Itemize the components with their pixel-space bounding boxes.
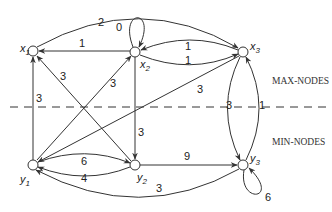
weight-y2-x1: 3 [60, 70, 66, 82]
weight-x2-y2: 3 [138, 126, 144, 138]
weight-y3-self: 6 [265, 191, 271, 203]
node-label-y2: y2 [136, 171, 148, 186]
region-label-max-nodes: MAX-NODES [272, 76, 329, 86]
node-label-x2: x2 [139, 58, 151, 73]
node-label-y1: y1 [19, 173, 30, 188]
node-x2 [130, 47, 140, 57]
edge-x1-x3 [37, 19, 238, 48]
weight-x2-x3: 1 [185, 54, 191, 66]
region-label-min-nodes: MIN-NODES [272, 137, 325, 147]
weight-x3-y1: 3 [197, 83, 203, 95]
nodes [28, 46, 248, 170]
node-label-x3: x3 [249, 40, 261, 55]
edge-y3-self [243, 168, 261, 194]
weight-y2-y3: 9 [184, 150, 190, 162]
node-label-x1: x1 [19, 42, 30, 57]
weight-x2-self: 0 [116, 21, 122, 33]
weight-x3-y3: 3 [226, 99, 232, 111]
edge-x2-self [130, 18, 145, 47]
graph-diagram: 2 0 1 1 1 3 3 3 3 3 3 1 6 4 9 3 6 x1 x2 … [0, 0, 332, 212]
weight-x1-x3: 2 [98, 16, 104, 28]
edge-x3-y1 [38, 56, 239, 162]
weight-y1-x1: 3 [36, 92, 42, 104]
weight-y2-y1: 4 [81, 172, 87, 184]
weight-x3-x2: 1 [185, 40, 191, 52]
node-y3 [238, 160, 248, 170]
weight-y1-y2: 6 [81, 155, 87, 167]
edge-y3-x3 [246, 57, 259, 160]
weight-y3-y1: 3 [156, 182, 162, 194]
weight-y3-x3: 1 [259, 99, 265, 111]
node-y1 [28, 160, 38, 170]
weight-x2-x1: 1 [79, 37, 85, 49]
node-x3 [238, 47, 248, 57]
node-y2 [130, 160, 140, 170]
weight-y1-x2: 3 [110, 77, 116, 89]
node-label-y3: y3 [249, 152, 261, 167]
